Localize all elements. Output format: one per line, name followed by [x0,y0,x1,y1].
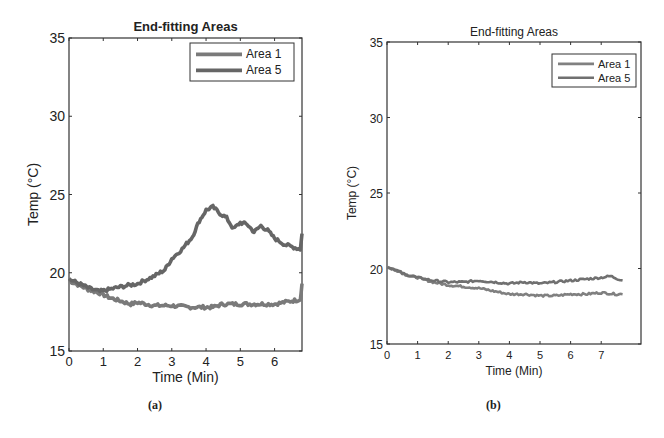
legend-label: Area 1 [246,47,282,61]
x-tick-label: 1 [100,354,107,369]
x-tick-label: 3 [476,349,482,361]
x-tick-label: 0 [384,349,390,361]
series-line-area-5 [69,206,302,292]
x-tick-label: 6 [568,349,574,361]
legend-label: Area 1 [598,58,630,70]
legend-label: Area 5 [246,63,282,77]
series-line-area-1 [69,281,302,309]
chart-title: End-fitting Areas [470,25,558,39]
x-tick-label: 0 [65,354,72,369]
y-tick-label: 15 [49,343,65,359]
x-tick-label: 2 [134,354,141,369]
x-tick-label: 4 [506,349,512,361]
y-tick-label: 35 [49,30,65,46]
x-tick-label: 6 [271,354,278,369]
x-tick-label: 5 [537,349,543,361]
caption-b: (b) [486,398,501,413]
chart-panel-a: End-fitting Areas01234561520253035Time (… [25,19,302,385]
chart-panel-b: End-fitting Areas012345671520253035Time … [345,25,641,378]
y-axis-label: Temp (°C) [345,166,359,220]
series-line-area-1 [387,267,623,297]
y-tick-label: 30 [49,108,65,124]
y-tick-label: 20 [49,265,65,281]
x-tick-label: 3 [168,354,175,369]
x-axis-label: Time (Min) [152,369,218,385]
y-tick-label: 20 [370,263,384,277]
x-axis-label: Time (Min) [486,364,543,378]
series-line-area-5 [387,268,623,285]
y-axis-label: Temp (°C) [25,163,41,226]
chart-title: End-fitting Areas [133,19,237,34]
x-tick-label: 2 [445,349,451,361]
legend: Area 1Area 5 [552,54,636,87]
y-tick-label: 35 [370,36,384,50]
y-tick-label: 15 [370,338,384,352]
x-tick-label: 1 [415,349,421,361]
y-tick-label: 30 [370,112,384,126]
x-tick-label: 7 [598,349,604,361]
x-tick-label: 5 [237,354,244,369]
caption-a: (a) [148,398,162,413]
y-tick-label: 25 [370,187,384,201]
figure-canvas: End-fitting Areas01234561520253035Time (… [0,0,664,438]
legend-label: Area 5 [598,72,630,84]
y-tick-label: 25 [49,187,65,203]
legend: Area 1Area 5 [190,43,294,81]
x-tick-label: 4 [202,354,209,369]
